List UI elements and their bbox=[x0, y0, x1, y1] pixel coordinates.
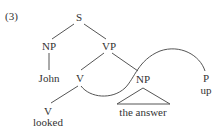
word-john: John bbox=[39, 73, 60, 84]
phrase-the-answer: the answer bbox=[119, 107, 166, 118]
node-vp: VP bbox=[102, 41, 116, 52]
edge-vp-v bbox=[81, 53, 104, 70]
np-triangle bbox=[117, 88, 170, 104]
edge-s-np bbox=[52, 24, 74, 39]
word-looked: looked bbox=[33, 117, 63, 128]
node-np-object: NP bbox=[136, 74, 150, 85]
edge-v-v bbox=[51, 86, 78, 103]
edge-s-vp bbox=[84, 24, 106, 39]
edge-vp-np bbox=[112, 53, 138, 71]
node-p: P bbox=[203, 73, 209, 84]
tree-edges bbox=[0, 0, 222, 132]
node-v-upper: V bbox=[76, 73, 84, 84]
node-s: S bbox=[76, 12, 82, 23]
node-np-subject: NP bbox=[42, 41, 56, 52]
example-number: (3) bbox=[5, 11, 18, 22]
word-up: up bbox=[201, 85, 212, 96]
